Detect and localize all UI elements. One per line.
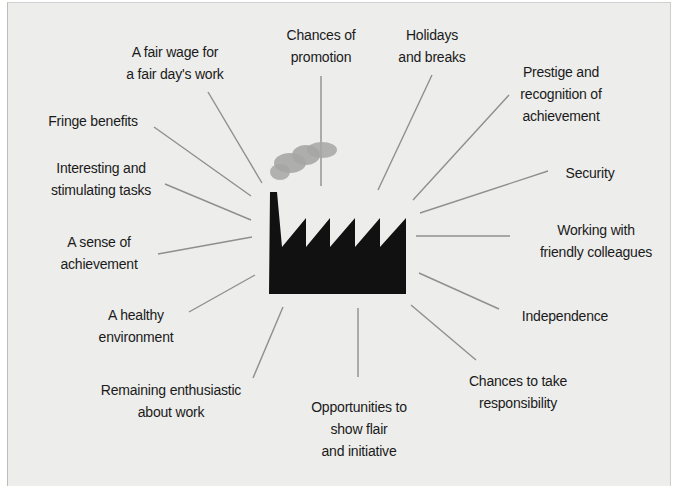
label-line: about work [101,401,241,423]
connector-line [419,273,499,309]
label-healthy: A healthyenvironment [99,304,174,348]
label-line: achievement [520,105,601,127]
connector-line [413,95,509,200]
label-sense-achievement: A sense ofachievement [60,231,137,275]
label-independence: Independence [522,305,608,327]
label-line: show flair [311,418,407,440]
label-line: and breaks [398,46,465,68]
label-prestige: Prestige andrecognition ofachievement [520,61,601,127]
label-friendly: Working withfriendly colleagues [540,219,652,263]
connector-line [411,305,476,360]
label-line: A sense of [60,231,137,253]
label-line: achievement [60,253,137,275]
label-line: Interesting and [51,157,151,179]
label-line: environment [99,326,174,348]
label-line: promotion [287,46,356,68]
label-line: Prestige and [520,61,601,83]
label-security: Security [566,162,615,184]
cloud-icon [270,142,337,180]
label-line: A healthy [99,304,174,326]
label-line: a fair day's work [126,63,223,85]
connector-line [208,92,262,183]
label-line: A fair wage for [126,41,223,63]
label-line: Security [566,162,615,184]
factory-icon [269,192,406,294]
connector-line [253,307,283,378]
label-line: Independence [522,305,608,327]
connector-line [420,171,548,213]
label-line: Fringe benefits [48,110,138,132]
label-promotion: Chances ofpromotion [287,24,356,68]
label-line: Opportunities to [311,396,407,418]
label-fair-wage: A fair wage fora fair day's work [126,41,223,85]
label-holidays: Holidaysand breaks [398,24,465,68]
label-line: Working with [540,219,652,241]
connector-line [165,184,251,220]
label-enthusiastic: Remaining enthusiasticabout work [101,379,241,423]
label-line: friendly colleagues [540,241,652,263]
label-opportunities: Opportunities toshow flairand initiative [311,396,407,462]
label-responsibility: Chances to takeresponsibility [469,370,567,414]
connector-line [158,237,252,254]
label-line: stimulating tasks [51,179,151,201]
label-line: recognition of [520,83,601,105]
label-interesting: Interesting andstimulating tasks [51,157,151,201]
label-line: Remaining enthusiastic [101,379,241,401]
connector-line [189,275,255,312]
label-line: responsibility [469,392,567,414]
label-line: and initiative [311,440,407,462]
label-fringe: Fringe benefits [48,110,138,132]
label-line: Chances of [287,24,356,46]
connector-line [378,75,432,190]
label-line: Chances to take [469,370,567,392]
label-line: Holidays [398,24,465,46]
